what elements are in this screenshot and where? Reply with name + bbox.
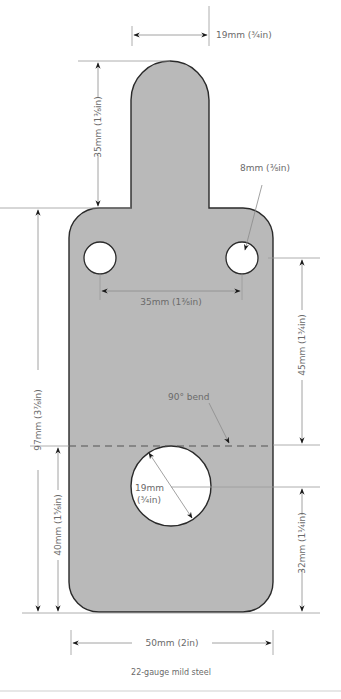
large-hole-label-2: (¾in) <box>137 495 161 505</box>
small-hole-left <box>84 242 116 274</box>
bracket-diagram: 19mm (¾in) 35mm (1⅜in) 8mm (⅜in) 35mm (1… <box>0 0 341 699</box>
small-hole-diameter-label: 8mm (⅜in) <box>240 163 290 173</box>
small-hole-right <box>226 242 258 274</box>
bend-to-bottom-label: 40mm (1⅝in) <box>53 494 63 556</box>
large-hole-label-1: 19mm <box>135 483 164 493</box>
material-caption: 22-gauge mild steel <box>131 668 211 677</box>
tab-height-label: 35mm (1⅜in) <box>93 96 103 158</box>
tab-width-label: 19mm (¾in) <box>216 30 272 40</box>
hole-to-bend-label: 45mm (1¾in) <box>297 314 307 376</box>
hole-spacing-label: 35mm (1⅜in) <box>140 297 202 307</box>
bend-label: 90° bend <box>168 392 209 402</box>
large-hole-to-bottom-label: 32mm (1¼in) <box>297 512 307 574</box>
overall-width-label: 50mm (2in) <box>146 638 199 648</box>
overall-height-label: 97mm (3⅞in) <box>33 389 43 451</box>
